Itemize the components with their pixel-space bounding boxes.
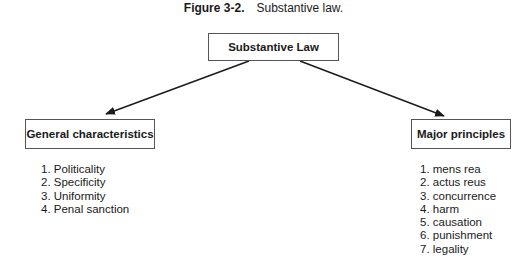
node-label: General characteristics (26, 128, 153, 140)
list-item: 5. causation (420, 216, 496, 229)
list-item: 1. Politicality (41, 163, 129, 176)
root-node-label: Substantive Law (228, 41, 319, 53)
list-item: 3. Uniformity (41, 190, 129, 203)
list-item: 3. concurrence (420, 190, 496, 203)
root-node-substantive-law: Substantive Law (208, 33, 339, 61)
major-principles-list: 1. mens rea 2. actus reus 3. concurrence… (420, 163, 496, 256)
list-item: 6. punishment (420, 229, 496, 242)
list-item: 4. harm (420, 203, 496, 216)
list-item: 7. legality (420, 243, 496, 256)
list-item: 2. actus reus (420, 176, 496, 189)
arrow-to-general-characteristics (106, 61, 249, 114)
arrow-to-major-principles (300, 61, 444, 116)
node-general-characteristics: General characteristics (25, 119, 155, 149)
list-item: 4. Penal sanction (41, 203, 129, 216)
list-item: 1. mens rea (420, 163, 496, 176)
node-major-principles: Major principles (411, 119, 511, 149)
node-label: Major principles (417, 128, 505, 140)
list-item: 2. Specificity (41, 176, 129, 189)
general-characteristics-list: 1. Politicality 2. Specificity 3. Unifor… (41, 163, 129, 216)
